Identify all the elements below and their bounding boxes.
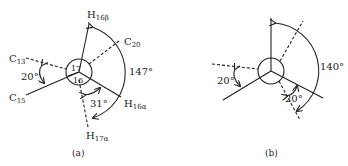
bond-left-dashed xyxy=(212,64,258,69)
angle-label-bottom: 31° xyxy=(90,98,108,109)
newman-projection-figure: 17 16 H16β C20 C13 C15 H16α H17α 20° 31°… xyxy=(0,0,348,166)
angle-label-left-b: 20° xyxy=(217,75,235,86)
angle-label-right: 147° xyxy=(129,66,153,77)
label-c13: C13 xyxy=(9,53,26,66)
angle-arc-left xyxy=(39,65,44,83)
label-h16a: H16α xyxy=(124,98,147,111)
label-h16b: H16β xyxy=(87,9,109,22)
label-c15: C15 xyxy=(9,92,26,105)
bond-c20 xyxy=(89,41,119,64)
panel-a-labels: 17 16 H16β C20 C13 C15 H16α H17α 20° 31°… xyxy=(9,9,153,158)
angle-label-left: 20° xyxy=(21,71,39,82)
caption-a: (a) xyxy=(72,148,84,158)
back-carbon-label: 16 xyxy=(73,76,83,85)
label-h17a: H17α xyxy=(86,130,109,143)
panel-b xyxy=(212,18,323,120)
caption-b: (b) xyxy=(265,148,278,158)
label-c20: C20 xyxy=(124,36,141,49)
bond-c13 xyxy=(26,58,66,69)
bond-h16a xyxy=(79,72,121,97)
angle-label-right-b: 140° xyxy=(320,61,344,72)
angle-arc-bottom xyxy=(85,88,100,95)
front-carbon-label: 17 xyxy=(71,64,81,73)
angle-label-bottom-b: 20° xyxy=(285,93,303,104)
bond-h17a xyxy=(79,80,88,127)
